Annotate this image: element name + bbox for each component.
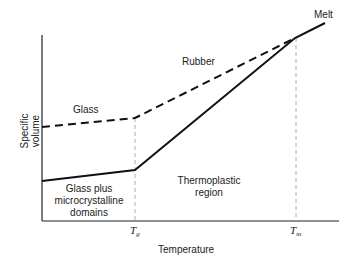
specific-volume-diagram: Specific volume Glass Rubber Melt Glass … xyxy=(0,0,353,269)
tg-subscript: g xyxy=(136,230,140,238)
thermoplastic-line1: Thermoplastic xyxy=(174,175,244,187)
tg-tick-label: Tg xyxy=(130,224,140,238)
y-axis-label: Specific volume xyxy=(19,103,41,159)
glass-plus-line3: domains xyxy=(48,207,130,219)
melt-label: Melt xyxy=(314,9,333,21)
x-axis-label: Temperature xyxy=(158,244,214,256)
semicrystalline-solid-curve xyxy=(42,23,325,181)
y-axis-label-line1: Specific xyxy=(19,103,30,159)
thermoplastic-region-label: Thermoplastic region xyxy=(174,175,244,199)
glass-label: Glass xyxy=(73,104,99,116)
glass-plus-line2: microcrystalline xyxy=(48,195,130,207)
thermoplastic-line2: region xyxy=(174,187,244,199)
tm-subscript: m xyxy=(296,230,301,238)
tm-tick-label: Tm xyxy=(290,224,301,238)
glass-plus-microcrystalline-label: Glass plus microcrystalline domains xyxy=(48,183,130,219)
glass-plus-line1: Glass plus xyxy=(48,183,130,195)
y-axis-label-line2: volume xyxy=(30,103,41,159)
rubber-label: Rubber xyxy=(182,56,215,68)
